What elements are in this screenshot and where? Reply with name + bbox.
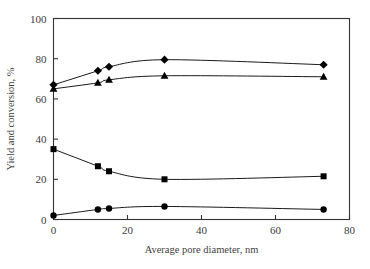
- circle-marker: [50, 212, 56, 218]
- y-tick-label: 60: [36, 93, 48, 105]
- square-marker: [321, 173, 327, 179]
- y-tick-label: 40: [36, 133, 48, 145]
- y-tick-label: 100: [30, 13, 47, 25]
- x-tick-label: 40: [196, 224, 208, 236]
- y-tick-label: 20: [36, 173, 48, 185]
- x-tick-label: 80: [344, 224, 356, 236]
- circle-marker: [106, 205, 112, 211]
- y-tick-label: 80: [36, 53, 48, 65]
- circle-marker: [320, 206, 326, 212]
- square-marker: [106, 168, 112, 174]
- square-marker: [95, 163, 101, 169]
- chart-figure: 020406080 020406080100 Average pore diam…: [0, 0, 370, 269]
- chart-canvas: 020406080 020406080100 Average pore diam…: [0, 0, 370, 269]
- x-axis-title: Average pore diameter, nm: [145, 244, 259, 255]
- square-marker: [162, 176, 168, 182]
- x-tick-label: 0: [51, 224, 57, 236]
- x-tick-label: 60: [270, 224, 282, 236]
- circle-marker: [95, 206, 101, 212]
- y-axis-title: Yield and conversion, %: [5, 67, 16, 170]
- x-tick-label: 20: [122, 224, 134, 236]
- circle-marker: [161, 203, 167, 209]
- square-marker: [51, 146, 57, 152]
- y-tick-label: 0: [41, 214, 47, 226]
